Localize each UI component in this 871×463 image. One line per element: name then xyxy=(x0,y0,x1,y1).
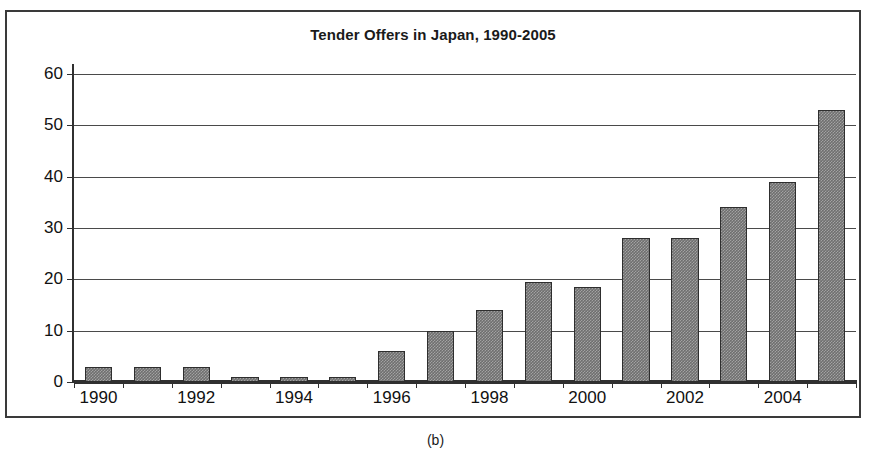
x-axis-tick-6 xyxy=(367,380,368,388)
bar-2000 xyxy=(574,287,601,382)
x-axis-label-2000: 2000 xyxy=(568,388,606,408)
y-axis-label-20: 20 xyxy=(44,269,63,289)
x-axis-tick-4 xyxy=(270,380,271,388)
x-axis-tick-15 xyxy=(807,380,808,388)
x-axis-tick-1 xyxy=(123,380,124,388)
x-axis-tick-8 xyxy=(465,380,466,388)
y-axis-label-10: 10 xyxy=(44,321,63,341)
x-axis-label-1996: 1996 xyxy=(373,388,411,408)
y-axis-label-40: 40 xyxy=(44,167,63,187)
x-axis-label-1998: 1998 xyxy=(471,388,509,408)
y-axis-tick-30 xyxy=(67,228,74,229)
figure-caption: (b) xyxy=(0,432,871,448)
x-axis-tick-11 xyxy=(612,380,613,388)
y-axis-tick-20 xyxy=(67,279,74,280)
x-axis-tick-7 xyxy=(416,380,417,388)
x-axis-tick-16 xyxy=(856,380,857,388)
y-axis-label-60: 60 xyxy=(44,64,63,84)
x-axis-tick-10 xyxy=(563,380,564,388)
y-axis-tick-50 xyxy=(67,125,74,126)
gridline-50 xyxy=(74,125,856,126)
x-axis-label-2004: 2004 xyxy=(764,388,802,408)
x-axis-tick-13 xyxy=(709,380,710,388)
bar-2004 xyxy=(769,182,796,382)
plot-area: 0102030405060 19901992199419961998200020… xyxy=(72,64,856,382)
bar-1997 xyxy=(427,331,454,382)
bar-1998 xyxy=(476,310,503,382)
x-axis-label-1990: 1990 xyxy=(80,388,118,408)
y-axis-label-30: 30 xyxy=(44,218,63,238)
x-axis-tick-14 xyxy=(758,380,759,388)
x-axis-tick-12 xyxy=(661,380,662,388)
bar-1993 xyxy=(231,377,258,382)
x-axis-tick-2 xyxy=(172,380,173,388)
x-axis-label-1994: 1994 xyxy=(275,388,313,408)
bar-1991 xyxy=(134,367,161,382)
bar-2002 xyxy=(671,238,698,382)
y-axis-tick-10 xyxy=(67,331,74,332)
y-axis-label-50: 50 xyxy=(44,115,63,135)
y-axis-label-0: 0 xyxy=(54,372,63,392)
figure-frame: Tender Offers in Japan, 1990-2005 010203… xyxy=(5,10,861,418)
bar-1996 xyxy=(378,351,405,382)
x-axis-label-2002: 2002 xyxy=(666,388,704,408)
x-axis-tick-5 xyxy=(318,380,319,388)
screenshot-root: Tender Offers in Japan, 1990-2005 010203… xyxy=(0,0,871,463)
bar-1995 xyxy=(329,377,356,382)
bar-2003 xyxy=(720,207,747,382)
plot-inner: 0102030405060 xyxy=(74,74,856,382)
bar-2005 xyxy=(818,110,845,382)
bar-1999 xyxy=(525,282,552,382)
y-axis-tick-0 xyxy=(67,382,74,383)
gridline-60 xyxy=(74,74,856,75)
gridline-40 xyxy=(74,177,856,178)
bar-1992 xyxy=(183,367,210,382)
bar-2001 xyxy=(622,238,649,382)
y-axis-tick-40 xyxy=(67,177,74,178)
bar-1994 xyxy=(280,377,307,382)
x-axis-label-1992: 1992 xyxy=(177,388,215,408)
bar-1990 xyxy=(85,367,112,382)
x-axis-tick-0 xyxy=(74,380,75,388)
chart-title: Tender Offers in Japan, 1990-2005 xyxy=(7,26,859,43)
y-axis-tick-60 xyxy=(67,74,74,75)
x-axis-tick-3 xyxy=(221,380,222,388)
x-axis-tick-9 xyxy=(514,380,515,388)
